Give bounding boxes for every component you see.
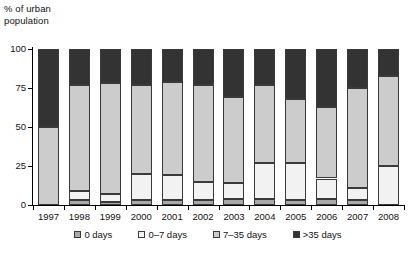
bar-segment [347, 49, 368, 88]
bar-2001 [162, 49, 183, 205]
x-tick-label-2008: 2008 [369, 211, 409, 222]
bar-segment [254, 163, 275, 199]
bar-segment [285, 200, 306, 205]
bar-segment [347, 88, 368, 188]
y-tick-label: 0 [0, 199, 26, 210]
x-tick-mark [219, 206, 220, 210]
y-tick-label: 100 [0, 43, 26, 54]
bar-segment [223, 199, 244, 205]
x-tick-mark [33, 206, 34, 210]
bar-2004 [254, 49, 275, 205]
x-tick-mark [373, 206, 374, 210]
legend-label: 0 days [84, 229, 112, 240]
bar-segment [100, 202, 121, 205]
bar-segment [254, 49, 275, 85]
x-tick-mark [157, 206, 158, 210]
bar-segment [254, 199, 275, 205]
bar-1997 [38, 49, 59, 205]
y-tick-label: 75 [0, 82, 26, 93]
bar-2000 [131, 49, 152, 205]
legend-swatch-icon [293, 231, 300, 238]
x-tick-mark [249, 206, 250, 210]
bar-segment [193, 85, 214, 182]
bar-segment [162, 175, 183, 200]
bar-segment [285, 99, 306, 163]
x-tick-mark [404, 206, 405, 210]
x-tick-mark [64, 206, 65, 210]
legend-label: >35 days [303, 229, 342, 240]
bar-segment [131, 49, 152, 85]
bar-segment [254, 85, 275, 163]
bar-segment [38, 127, 59, 205]
legend-item-3[interactable]: >35 days [293, 229, 342, 240]
chart-legend: 0 days0–7 days7–35 days>35 days [0, 229, 416, 240]
bar-segment [69, 191, 90, 200]
legend-swatch-icon [138, 231, 145, 238]
bar-segment [131, 85, 152, 174]
bar-1998 [69, 49, 90, 205]
bar-2003 [223, 49, 244, 205]
bar-2008 [378, 49, 399, 205]
bar-2007 [347, 49, 368, 205]
bar-segment [223, 49, 244, 97]
bar-segment [131, 174, 152, 201]
bar-segment [162, 82, 183, 176]
plot-area [33, 49, 404, 205]
bar-segment [316, 49, 337, 107]
bar-segment [131, 200, 152, 205]
legend-item-0[interactable]: 0 days [74, 229, 112, 240]
bar-segment [69, 85, 90, 191]
y-axis-title: % of urban population [4, 3, 51, 26]
bar-2002 [193, 49, 214, 205]
bar-segment [285, 163, 306, 200]
stacked-bar-chart: % of urban population 0255075100 1997199… [0, 0, 416, 253]
bar-segment [378, 49, 399, 76]
bar-segment [378, 76, 399, 166]
bar-segment [223, 97, 244, 183]
bar-segment [285, 49, 306, 99]
legend-swatch-icon [213, 231, 220, 238]
legend-item-1[interactable]: 0–7 days [138, 229, 187, 240]
bar-segment [316, 199, 337, 205]
x-tick-mark [311, 206, 312, 210]
bar-segment [100, 83, 121, 194]
bar-segment [347, 200, 368, 205]
bar-segment [162, 200, 183, 205]
bar-2005 [285, 49, 306, 205]
bar-segment [69, 200, 90, 205]
x-tick-mark [342, 206, 343, 210]
bar-segment [316, 107, 337, 179]
bar-segment [223, 183, 244, 199]
bar-1999 [100, 49, 121, 205]
bar-segment [193, 49, 214, 85]
x-tick-mark [126, 206, 127, 210]
x-tick-mark [280, 206, 281, 210]
bar-2006 [316, 49, 337, 205]
legend-label: 7–35 days [223, 229, 267, 240]
bar-segment [38, 49, 59, 127]
legend-item-2[interactable]: 7–35 days [213, 229, 267, 240]
y-tick-label: 50 [0, 121, 26, 132]
bar-segment [378, 166, 399, 205]
bar-segment [193, 182, 214, 201]
x-tick-mark [188, 206, 189, 210]
x-tick-mark [95, 206, 96, 210]
bar-segment [100, 49, 121, 83]
legend-label: 0–7 days [148, 229, 187, 240]
bar-segment [100, 194, 121, 202]
bar-segment [69, 49, 90, 85]
bar-segment [316, 179, 337, 199]
bar-segment [162, 49, 183, 82]
bar-segment [347, 188, 368, 200]
bar-segment [193, 200, 214, 205]
y-tick-label: 25 [0, 160, 26, 171]
legend-swatch-icon [74, 231, 81, 238]
